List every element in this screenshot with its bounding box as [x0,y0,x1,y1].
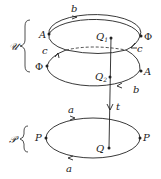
middle-loop [47,50,140,86]
brace-upper [20,20,30,72]
arrow-icon [117,83,122,88]
label-a-top: a [68,104,74,115]
label-Q2: Q2 [95,71,107,83]
label-Phi-top: Φ [144,31,152,42]
label-t: t [116,101,121,112]
brace-lower [20,126,28,152]
label-P-right: P [142,132,150,143]
label-P-left: P [34,132,42,143]
label-upper-group: 𝒰 [9,41,21,52]
middle-loop-dashed-top [66,47,126,50]
label-lower-group: 𝒫 [9,134,19,145]
label-Phi-middle: Φ [35,61,43,72]
map-line [109,38,111,148]
arrow-icon [72,16,77,19]
label-a-bottom: a [66,163,72,174]
label-c-right: c [137,43,143,54]
label-c-left: c [42,45,48,56]
label-Q: Q [96,143,104,154]
covering-diagram: 𝒰 b c c b A Φ Φ A t Q1 Q2 𝒫 a a P P Q [0,0,161,179]
label-top-b: b [71,3,77,14]
label-A-top: A [38,29,46,40]
label-Q1: Q1 [96,31,108,43]
top-loop [49,15,141,54]
bottom-loop [46,118,140,158]
label-middle-b: b [133,84,139,95]
arrow-icon [68,156,73,160]
label-A-middle: A [143,66,151,77]
arrow-icon [55,53,59,58]
